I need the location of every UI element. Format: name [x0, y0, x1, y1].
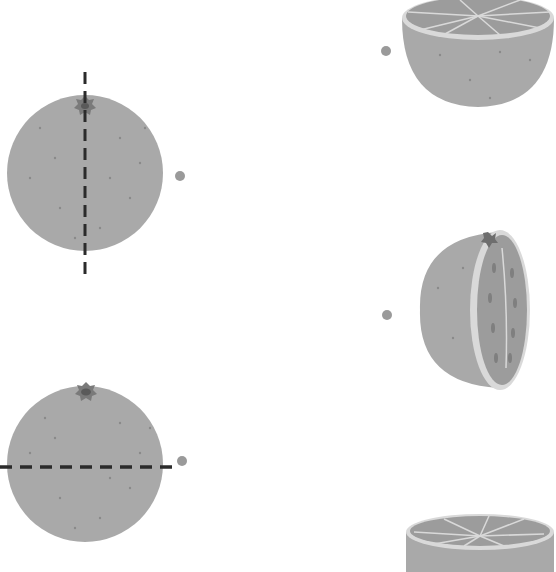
half-orange-bowl-icon [400, 0, 556, 110]
whole-orange-vertical-cut [0, 68, 170, 278]
half-orange-top-cut [404, 512, 556, 572]
half-orange-side-cut [418, 228, 534, 392]
half-orange-cylinder-icon [404, 512, 556, 572]
match-dot-right-1[interactable] [381, 46, 391, 56]
match-dot-left-2[interactable] [177, 456, 187, 466]
orange-vertical-cut-icon [0, 68, 170, 278]
whole-orange-horizontal-cut [0, 378, 180, 553]
match-dot-left-1[interactable] [175, 171, 185, 181]
half-orange-top-open [400, 0, 556, 110]
match-dot-right-2[interactable] [382, 310, 392, 320]
half-orange-side-icon [418, 228, 534, 392]
orange-horizontal-cut-icon [0, 378, 180, 553]
